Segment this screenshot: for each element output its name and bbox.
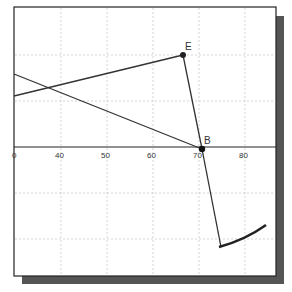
tick-label: 0 [12,151,17,160]
point-b-label: B [204,135,211,146]
tick-label: 40 [55,151,64,160]
tick-label: 70 [193,151,202,160]
point-e[interactable] [180,52,186,58]
frame-shadow-bottom [22,276,284,284]
tick-label: 50 [101,151,110,160]
tick-label: 60 [147,151,156,160]
diagram-canvas: 0 40 50 60 70 80 E B [0,0,292,292]
frame-shadow-right [276,16,284,284]
point-b[interactable] [199,146,205,152]
plot-frame [14,7,276,276]
point-e-label: E [185,41,192,52]
tick-label: 80 [239,151,248,160]
